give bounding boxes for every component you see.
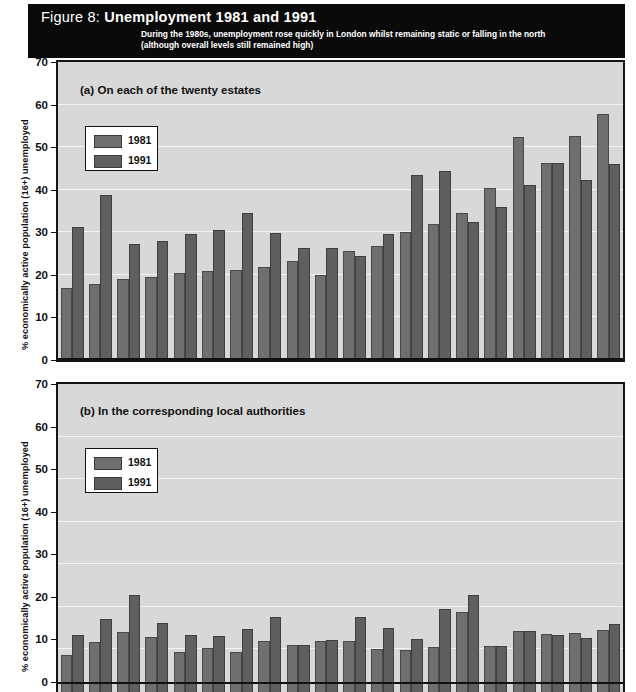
x-axis-baseline [58, 682, 623, 684]
bar-1981-13 [400, 650, 412, 692]
bar-1981-12 [371, 649, 383, 692]
figure-page: Figure 8: Unemployment 1981 and 1991 Dur… [0, 0, 636, 692]
legend-label-1991: 1991 [128, 476, 151, 488]
legend-label-1981: 1981 [128, 456, 151, 468]
bar-1981-15 [456, 612, 468, 692]
y-tick-label-60: 60 [18, 99, 48, 111]
legend-swatch-1981 [94, 457, 122, 470]
bar-1981-16 [484, 188, 496, 360]
legend-item-1991: 1991 [86, 155, 157, 168]
y-tick-mark-10 [51, 639, 56, 640]
legend-item-1991: 1991 [86, 477, 157, 490]
legend-swatch-1991 [94, 155, 122, 168]
y-tick-label-60: 60 [18, 421, 48, 433]
bar-1981-17 [513, 137, 525, 360]
y-tick-label-70: 70 [18, 378, 48, 390]
bar-1991-16 [496, 646, 508, 692]
gridline-30 [58, 563, 623, 564]
bar-1991-7 [242, 213, 254, 360]
bar-1991-13 [411, 639, 423, 692]
legend-item-1981: 1981 [86, 135, 157, 148]
legend-item-1981: 1981 [86, 457, 157, 470]
bar-1981-8 [258, 641, 270, 692]
bar-1991-19 [581, 180, 593, 360]
bar-1991-14 [439, 609, 451, 692]
legend-swatch-1991 [94, 477, 122, 490]
gridline-40 [58, 189, 623, 190]
panel-a-title: (a) On each of the twenty estates [80, 83, 261, 96]
bar-1981-14 [428, 224, 440, 360]
bar-1981-3 [117, 279, 129, 360]
bar-1991-17 [524, 185, 536, 360]
bar-1981-2 [89, 284, 101, 360]
bar-1991-4 [157, 241, 169, 360]
gridline-10 [58, 316, 623, 317]
figure-subtitle-line2: (although overall levels still remained … [141, 40, 611, 51]
bar-1991-10 [326, 640, 338, 692]
y-tick-mark-10 [51, 317, 56, 318]
figure-number: Figure 8: [41, 9, 104, 25]
figure-title: Unemployment 1981 and 1991 [104, 9, 316, 25]
bar-1981-18 [541, 163, 553, 360]
bar-1991-15 [468, 595, 480, 692]
y-tick-mark-40 [51, 190, 56, 191]
bar-1981-7 [230, 270, 242, 360]
bar-1991-14 [439, 171, 451, 360]
legend-b: 19811991 [85, 448, 158, 493]
bar-1991-8 [270, 233, 282, 360]
bar-1991-5 [185, 234, 197, 360]
bar-1991-6 [213, 230, 225, 360]
bar-1981-1 [61, 655, 73, 692]
bar-1981-16 [484, 646, 496, 692]
plot-area-a [58, 62, 623, 360]
legend-swatch-1981 [94, 135, 122, 148]
bar-1991-10 [326, 248, 338, 360]
bar-1981-1 [61, 288, 73, 360]
gridline-60 [58, 436, 623, 437]
bar-1981-10 [315, 275, 327, 360]
bar-1991-18 [552, 163, 564, 360]
bar-1981-10 [315, 641, 327, 692]
bar-1991-12 [383, 234, 395, 360]
bar-1991-16 [496, 207, 508, 360]
figure-banner: Figure 8: Unemployment 1981 and 1991 Dur… [28, 4, 625, 58]
plot-area-b [58, 384, 623, 692]
bar-1981-13 [400, 232, 412, 360]
bar-1981-2 [89, 642, 101, 692]
y-tick-mark-0 [51, 360, 56, 361]
bar-1981-5 [174, 273, 186, 360]
legend-label-1991: 1991 [128, 154, 151, 166]
y-axis-title-b: % economically active population (16+) u… [20, 441, 30, 672]
bar-1991-20 [609, 164, 621, 360]
bar-1981-6 [202, 271, 214, 360]
bar-1991-11 [355, 617, 367, 692]
chart-panel-a [56, 60, 625, 362]
bar-1991-9 [298, 248, 310, 360]
bar-1991-3 [129, 595, 141, 692]
legend-a: 19811991 [85, 126, 158, 171]
gridline-30 [58, 231, 623, 232]
y-tick-label-70: 70 [18, 56, 48, 68]
y-axis-title-a: % economically active population (16+) u… [20, 119, 30, 350]
gridline-20 [58, 606, 623, 607]
y-tick-mark-50 [51, 469, 56, 470]
bar-1981-12 [371, 246, 383, 360]
y-tick-mark-20 [51, 597, 56, 598]
bar-1981-11 [343, 641, 355, 692]
bar-1991-13 [411, 175, 423, 360]
bar-1981-4 [145, 277, 157, 360]
y-tick-label-0: 0 [18, 354, 48, 366]
y-tick-mark-30 [51, 232, 56, 233]
bar-1981-6 [202, 648, 214, 692]
y-tick-mark-60 [51, 105, 56, 106]
bar-1981-8 [258, 267, 270, 360]
bar-1981-19 [569, 136, 581, 360]
bar-1981-14 [428, 647, 440, 692]
bar-1981-15 [456, 213, 468, 360]
y-tick-mark-30 [51, 554, 56, 555]
figure-subtitle: During the 1980s, unemployment rose quic… [141, 29, 611, 50]
bar-1991-15 [468, 222, 480, 360]
bar-1981-9 [287, 645, 299, 692]
gridline-40 [58, 521, 623, 522]
y-tick-mark-70 [51, 384, 56, 385]
